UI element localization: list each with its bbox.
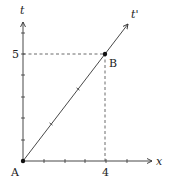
x-tick-label-4: 4: [102, 166, 109, 179]
point-b-label: B: [109, 57, 117, 70]
t-tick-label-5: 5: [12, 48, 19, 61]
t-axis-label: t: [20, 4, 25, 17]
point-a-label: A: [10, 166, 20, 179]
point-a-marker: [21, 159, 25, 163]
spacetime-diagram: t x t' 5 4 A B: [0, 0, 174, 179]
worldline-label: t': [131, 8, 138, 21]
x-axis-label: x: [156, 155, 163, 168]
worldline-t-prime: [23, 24, 128, 161]
point-b-marker: [103, 52, 107, 56]
